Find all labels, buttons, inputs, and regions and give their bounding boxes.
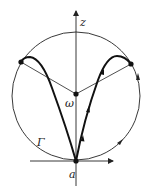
left-upper-point (18, 59, 23, 64)
a-label: a (69, 168, 76, 181)
gamma-label: Γ (36, 136, 45, 149)
omega-label: ω (65, 97, 74, 110)
a-point (73, 158, 78, 163)
omega-point (73, 91, 78, 96)
z-axis-label: z (79, 16, 86, 29)
right-upper-point (128, 61, 133, 66)
contour-diagram: z ω a Γ (0, 0, 145, 189)
